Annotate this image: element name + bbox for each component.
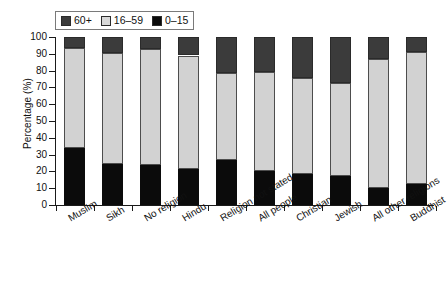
bar-segment-1 xyxy=(140,49,161,165)
y-tick-label: 60 xyxy=(23,98,47,109)
y-tick-mark xyxy=(49,155,55,156)
bar-sikh xyxy=(102,37,123,205)
plot-area: 1009080706050403020100 xyxy=(56,37,434,205)
bar-hindu xyxy=(178,37,199,205)
bar-segment-2 xyxy=(406,37,427,52)
bar-segment-0 xyxy=(140,165,161,205)
y-tick-label: 0 xyxy=(23,199,47,210)
bar-segment-2 xyxy=(102,37,123,53)
legend-item-0-15: 0–15 xyxy=(152,15,188,26)
bar-buddhist xyxy=(406,37,427,205)
bar-jewish xyxy=(330,37,351,205)
y-tick-label: 100 xyxy=(23,31,47,42)
y-tick-mark xyxy=(49,87,55,88)
bar-segment-2 xyxy=(254,37,275,72)
legend-swatch-60-plus xyxy=(61,16,71,26)
y-tick-mark xyxy=(49,104,55,105)
bar-segment-1 xyxy=(254,72,275,170)
y-tick-mark xyxy=(49,121,55,122)
y-tick-label: 70 xyxy=(23,81,47,92)
legend-label-0-15: 0–15 xyxy=(165,15,188,26)
bar-segment-1 xyxy=(178,56,199,169)
bar-segment-0 xyxy=(102,164,123,205)
bar-muslim xyxy=(64,37,85,205)
y-tick-mark xyxy=(49,54,55,55)
x-category-label: Sikh xyxy=(104,204,126,223)
y-tick-label: 80 xyxy=(23,65,47,76)
y-axis-line xyxy=(55,37,56,206)
bar-segment-1 xyxy=(216,73,237,160)
bar-segment-2 xyxy=(178,37,199,55)
bar-segment-1 xyxy=(292,78,313,174)
y-tick-mark xyxy=(49,205,55,206)
bar-segment-2 xyxy=(292,37,313,78)
bar-segment-0 xyxy=(368,188,389,205)
bar-segment-2 xyxy=(140,37,161,49)
bar-no-religion xyxy=(140,37,161,205)
y-tick-label: 10 xyxy=(23,182,47,193)
x-tick-mark xyxy=(132,206,133,211)
legend-swatch-0-15 xyxy=(152,16,162,26)
bar-segment-0 xyxy=(216,160,237,205)
bar-all-people xyxy=(254,37,275,205)
y-tick-mark xyxy=(49,71,55,72)
bar-segment-1 xyxy=(64,48,85,148)
legend-swatch-16-59 xyxy=(101,16,111,26)
y-tick-mark xyxy=(49,171,55,172)
bar-segment-0 xyxy=(330,176,351,205)
legend-item-60-plus: 60+ xyxy=(61,15,92,26)
x-tick-mark xyxy=(208,206,209,211)
y-tick-label: 30 xyxy=(23,149,47,160)
y-tick-mark xyxy=(49,37,55,38)
bar-segment-0 xyxy=(64,148,85,205)
y-tick-mark xyxy=(49,138,55,139)
bar-segment-2 xyxy=(368,37,389,59)
y-tick-mark xyxy=(49,188,55,189)
legend-item-16-59: 16–59 xyxy=(101,15,143,26)
bar-all-other-religions xyxy=(368,37,389,205)
x-axis-category-labels: MuslimSikhNo religionHinduReligion not s… xyxy=(56,212,444,295)
y-tick-label: 40 xyxy=(23,132,47,143)
bar-segment-1 xyxy=(330,83,351,175)
bar-segment-2 xyxy=(216,37,237,73)
y-tick-label: 50 xyxy=(23,115,47,126)
legend-label-60-plus: 60+ xyxy=(74,15,92,26)
bar-segment-1 xyxy=(368,59,389,188)
chart-legend: 60+ 16–59 0–15 xyxy=(55,11,194,30)
x-tick-mark xyxy=(56,206,57,211)
bar-christian xyxy=(292,37,313,205)
bar-segment-1 xyxy=(102,53,123,164)
y-tick-label: 90 xyxy=(23,48,47,59)
bar-religion-not-stated xyxy=(216,37,237,205)
bar-segment-1 xyxy=(406,52,427,184)
bar-segment-2 xyxy=(64,37,85,48)
bar-segment-2 xyxy=(330,37,351,83)
legend-label-16-59: 16–59 xyxy=(114,15,143,26)
y-tick-label: 20 xyxy=(23,165,47,176)
